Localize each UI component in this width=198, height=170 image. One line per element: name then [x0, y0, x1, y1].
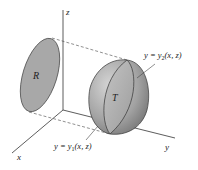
- axis-label-x: x: [16, 152, 21, 162]
- region-label: R: [32, 70, 39, 81]
- axis-label-z: z: [65, 7, 70, 17]
- region-r: [13, 34, 68, 117]
- solid-t: [89, 60, 149, 135]
- upper-surface-label: y = y2(x, z): [143, 50, 182, 61]
- axis-label-y: y: [164, 142, 169, 152]
- diagram-canvas: z x y R T y = y2(x, z) y = y1(x, z): [0, 0, 198, 170]
- lower-surface-label: y = y1(x, z): [53, 141, 92, 152]
